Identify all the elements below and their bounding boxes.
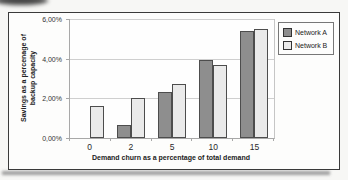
y-tick-mark [66, 98, 70, 99]
legend-label-network-b: Network B [295, 42, 327, 49]
bar-group-5 [152, 19, 193, 138]
bar-group-15 [233, 19, 274, 138]
bar-network-a-cat-15 [240, 31, 254, 138]
legend: Network A Network B [278, 22, 334, 55]
bar-network-b-cat-5 [172, 84, 186, 138]
scan-smudge-top-left [0, 0, 48, 5]
y-tick-label: 0,00% [42, 135, 62, 142]
bar-groups [70, 19, 274, 138]
x-tick-mark [69, 138, 70, 141]
bar-network-b-cat-10 [213, 65, 227, 138]
legend-item-network-a: Network A [283, 28, 330, 37]
scanned-figure: Savings as a percenage of backup capacit… [0, 0, 348, 180]
bar-network-a-cat-10 [199, 60, 213, 138]
y-tick-label: 6,00% [42, 16, 62, 23]
gridline [70, 19, 274, 20]
x-tick-mark [232, 138, 233, 141]
y-tick-mark [66, 19, 70, 20]
x-tick-mark [110, 138, 111, 141]
bar-group-10 [192, 19, 233, 138]
x-category-labels: 0251015 [69, 142, 275, 152]
legend-item-network-b: Network B [283, 41, 330, 50]
x-category-label-5: 5 [151, 142, 192, 152]
scan-shadow-bottom [2, 171, 330, 175]
x-category-label-10: 10 [193, 142, 234, 152]
bar-network-a-cat-5 [158, 92, 172, 138]
bar-network-b-cat-2 [131, 98, 145, 138]
legend-label-network-a: Network A [295, 29, 327, 36]
y-tick-mark [66, 59, 70, 60]
x-tick-mark [151, 138, 152, 141]
plot-area [69, 19, 275, 139]
legend-swatch-network-a [283, 28, 292, 37]
chart: Savings as a percenage of backup capacit… [8, 12, 340, 170]
bar-group-2 [111, 19, 152, 138]
x-category-label-15: 15 [234, 142, 275, 152]
x-category-label-0: 0 [69, 142, 110, 152]
x-axis-title: Demand churn as a percentage of total de… [49, 154, 293, 161]
x-tick-mark [191, 138, 192, 141]
y-tick-label: 2,00% [42, 95, 62, 102]
x-category-label-2: 2 [110, 142, 151, 152]
bar-network-a-cat-2 [117, 125, 131, 138]
bar-network-b-cat-0 [90, 106, 104, 138]
y-tick-label: 4,00% [42, 56, 62, 63]
bar-network-b-cat-15 [254, 29, 268, 138]
x-tick-mark [273, 138, 274, 141]
legend-swatch-network-b [283, 41, 292, 50]
bar-group-0 [70, 19, 111, 138]
y-axis-labels: 0,00%2,00%4,00%6,00% [9, 19, 63, 138]
